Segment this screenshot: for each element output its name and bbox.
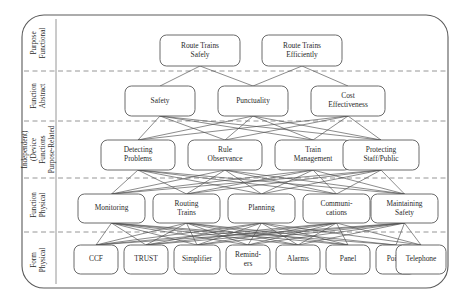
node-label-panel: Panel xyxy=(340,254,356,263)
node-label-maintaining-safety: Safety xyxy=(395,208,414,217)
node-label-route-trains-safely: Safely xyxy=(191,50,210,59)
node-punctuality[interactable]: Punctuality xyxy=(218,86,288,116)
node-label-rule-observance: Observance xyxy=(208,154,244,163)
node-alarms[interactable]: Alarms xyxy=(276,245,320,274)
node-cost-effectiveness[interactable]: CostEffectiveness xyxy=(311,86,385,116)
diagram-canvas: Route TrainsSafelyRoute TrainsEfficientl… xyxy=(0,0,461,302)
node-safety[interactable]: Safety xyxy=(125,86,195,116)
edge-planning-to-ccf xyxy=(96,223,262,245)
node-label-telephone: Telephone xyxy=(406,254,437,263)
level-label-physical-form: Form xyxy=(30,252,38,268)
node-label-ccf: CCF xyxy=(89,254,103,263)
node-trust[interactable]: TRUST xyxy=(124,245,168,274)
level-label-abstract-function: Abstract xyxy=(39,84,47,108)
edge-cost-effectiveness-to-protecting-staff-public xyxy=(348,116,381,140)
node-label-communications: cations xyxy=(326,208,347,217)
node-label-routing-trains: Trains xyxy=(177,208,196,217)
level-label-functional-purpose: Purpose xyxy=(30,31,38,54)
level-label-purpose-related-functions: Independent) xyxy=(21,130,29,169)
node-panel[interactable]: Panel xyxy=(326,245,370,274)
node-rule-observance[interactable]: RuleObservance xyxy=(188,140,262,170)
node-train-management[interactable]: TrainManagement xyxy=(275,140,351,170)
node-ccf[interactable]: CCF xyxy=(74,245,118,274)
node-maintaining-safety[interactable]: MaintainingSafety xyxy=(371,194,438,223)
node-label-safety: Safety xyxy=(151,96,170,105)
node-monitoring[interactable]: Monitoring xyxy=(78,194,145,223)
edge-route-trains-efficiently-to-punctuality xyxy=(253,66,302,86)
node-route-trains-efficiently[interactable]: Route TrainsEfficiently xyxy=(262,35,342,66)
edge-communications-to-panel xyxy=(337,223,349,245)
level-label-abstract-function: Function xyxy=(30,83,38,109)
edge-punctuality-to-train-management xyxy=(253,116,313,140)
node-label-route-trains-efficiently: Efficiently xyxy=(286,50,318,59)
level-label-functional-purpose: Functional xyxy=(39,28,47,59)
node-label-protecting-staff-public: Staff/Public xyxy=(363,154,399,163)
edge-route-trains-safely-to-safety xyxy=(160,66,200,86)
node-routing-trains[interactable]: RoutingTrains xyxy=(153,194,220,223)
node-label-cost-effectiveness: Effectiveness xyxy=(328,100,368,109)
node-protecting-staff-public[interactable]: ProtectingStaff/Public xyxy=(343,140,419,170)
level-label-purpose-related-functions: Functions xyxy=(39,135,47,164)
node-reminders[interactable]: Remind-ers xyxy=(226,245,270,274)
edge-maintaining-safety-to-telephone xyxy=(405,223,422,245)
abstraction-hierarchy-diagram: Route TrainsSafelyRoute TrainsEfficientl… xyxy=(0,0,461,302)
node-label-trust: TRUST xyxy=(134,254,158,263)
node-label-simplifier: Simplifier xyxy=(182,254,213,263)
node-label-train-management: Management xyxy=(294,154,334,163)
edge-route-trains-efficiently-to-cost-effectiveness xyxy=(302,66,348,86)
node-label-monitoring: Monitoring xyxy=(95,203,129,212)
level-label-physical-function: Physical xyxy=(39,193,47,217)
edge-punctuality-to-rule-observance xyxy=(225,116,253,140)
level-label-physical-function: Function xyxy=(30,192,38,218)
node-telephone[interactable]: Telephone xyxy=(396,245,446,274)
edge-communications-to-trust xyxy=(146,223,337,245)
node-label-planning: Planning xyxy=(248,203,275,212)
edge-route-trains-safely-to-punctuality xyxy=(200,66,253,86)
edge-protecting-staff-public-to-maintaining-safety xyxy=(381,170,405,194)
level-label-purpose-related-functions: Purpose-Related xyxy=(48,125,56,173)
node-planning[interactable]: Planning xyxy=(228,194,295,223)
level-label-purpose-related-functions: (Device xyxy=(30,138,38,161)
edge-maintaining-safety-to-points xyxy=(396,223,405,245)
node-simplifier[interactable]: Simplifier xyxy=(174,245,220,274)
edge-detecting-problems-to-monitoring xyxy=(112,170,139,194)
node-communications[interactable]: Communi-cations xyxy=(303,194,370,223)
edge-protecting-staff-public-to-monitoring xyxy=(112,170,382,194)
level-label-layer: FunctionalPurposeAbstractFunctionPurpose… xyxy=(21,28,57,273)
node-detecting-problems[interactable]: DetectingProblems xyxy=(101,140,175,170)
node-route-trains-safely[interactable]: Route TrainsSafely xyxy=(160,35,240,66)
node-label-reminders: ers xyxy=(244,259,253,268)
node-label-detecting-problems: Problems xyxy=(124,154,152,163)
level-label-physical-form: Physical xyxy=(39,248,47,272)
node-label-punctuality: Punctuality xyxy=(236,96,270,105)
node-label-alarms: Alarms xyxy=(287,254,309,263)
edge-rule-observance-to-maintaining-safety xyxy=(225,170,405,194)
